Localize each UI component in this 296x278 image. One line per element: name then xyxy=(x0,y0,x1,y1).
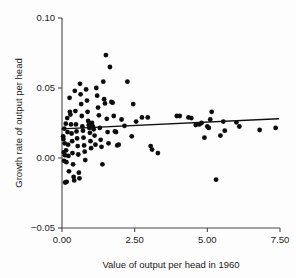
data-point xyxy=(97,113,102,118)
data-point xyxy=(72,178,77,183)
data-point xyxy=(134,119,139,124)
data-point xyxy=(71,162,76,167)
data-point xyxy=(84,87,89,92)
data-point xyxy=(64,160,69,165)
data-point xyxy=(114,130,119,135)
data-point xyxy=(64,148,69,153)
data-point xyxy=(82,143,87,148)
data-point xyxy=(83,158,88,163)
data-point xyxy=(129,134,134,139)
data-point xyxy=(99,144,104,149)
data-point xyxy=(95,93,100,98)
data-point xyxy=(64,179,69,184)
data-point xyxy=(89,146,94,151)
data-point xyxy=(97,126,102,131)
data-point xyxy=(93,142,98,147)
data-point xyxy=(69,131,74,136)
data-point xyxy=(145,115,150,120)
x-tick-label: 7.50 xyxy=(271,234,290,245)
x-tick-label: 0.00 xyxy=(53,234,72,245)
data-point xyxy=(218,133,223,138)
x-axis-title: Value of output per head in 1960 xyxy=(102,259,239,270)
data-point xyxy=(78,92,83,97)
data-point xyxy=(74,129,79,134)
scatter-plot-figure: −0.050.000.050.100.002.505.007.50Value o… xyxy=(0,0,296,278)
data-point xyxy=(61,137,66,142)
data-point xyxy=(67,169,72,174)
data-point xyxy=(70,139,75,144)
data-point xyxy=(140,115,145,120)
data-point xyxy=(85,109,90,114)
data-point xyxy=(63,121,68,126)
data-point xyxy=(88,139,93,144)
data-point xyxy=(110,100,115,105)
data-point xyxy=(85,98,90,103)
data-point xyxy=(78,81,83,86)
data-point xyxy=(206,126,211,131)
y-tick-label: −0.05 xyxy=(31,222,55,233)
data-point xyxy=(75,144,80,149)
x-tick-label: 2.50 xyxy=(125,234,144,245)
data-point xyxy=(79,114,84,119)
data-point xyxy=(108,65,113,70)
data-point xyxy=(237,124,242,129)
data-point xyxy=(75,136,80,141)
data-point xyxy=(104,116,109,121)
y-tick-label: 0.05 xyxy=(37,82,56,93)
data-point xyxy=(273,126,278,131)
data-point xyxy=(209,109,214,114)
data-point xyxy=(156,151,161,156)
axis-frame xyxy=(62,18,280,228)
data-point xyxy=(106,141,111,146)
data-point xyxy=(69,122,74,127)
data-point xyxy=(81,128,86,133)
data-point xyxy=(98,137,103,142)
data-point xyxy=(257,128,262,133)
data-point xyxy=(100,162,105,167)
data-point xyxy=(67,95,72,100)
data-point xyxy=(111,114,116,119)
chart-canvas: −0.050.000.050.100.002.505.007.50Value o… xyxy=(0,0,296,278)
data-point xyxy=(222,128,227,133)
data-point xyxy=(105,130,110,135)
data-point xyxy=(77,176,82,181)
x-tick-label: 5.00 xyxy=(198,234,217,245)
y-tick-label: 0.10 xyxy=(37,12,56,23)
data-point xyxy=(214,177,219,182)
data-point xyxy=(96,105,101,110)
data-point xyxy=(202,135,207,140)
data-point xyxy=(208,117,213,122)
y-axis-title: Growth rate of output per head xyxy=(13,58,24,187)
data-point xyxy=(101,79,106,84)
data-point xyxy=(79,102,84,107)
data-point xyxy=(72,88,77,93)
data-point xyxy=(76,170,81,175)
data-point xyxy=(150,147,155,152)
data-point xyxy=(65,130,70,135)
data-point xyxy=(103,101,108,106)
data-point xyxy=(66,154,71,159)
data-point xyxy=(116,142,121,147)
data-point xyxy=(74,122,79,127)
data-point xyxy=(177,114,182,119)
data-point-group xyxy=(61,53,278,185)
data-point xyxy=(70,151,75,156)
data-point xyxy=(81,135,86,140)
data-point xyxy=(68,112,73,117)
data-point xyxy=(102,97,107,102)
data-point xyxy=(76,152,81,157)
regression-line xyxy=(62,119,279,129)
data-point xyxy=(131,102,136,107)
data-point xyxy=(66,142,71,147)
y-tick-label: 0.00 xyxy=(37,152,56,163)
data-point xyxy=(94,86,99,91)
data-point xyxy=(103,53,108,58)
data-point xyxy=(73,109,78,114)
data-point xyxy=(125,79,130,84)
data-point xyxy=(88,130,93,135)
data-point xyxy=(92,133,97,138)
data-point xyxy=(119,117,124,122)
data-point xyxy=(189,116,194,121)
data-point xyxy=(82,149,87,154)
